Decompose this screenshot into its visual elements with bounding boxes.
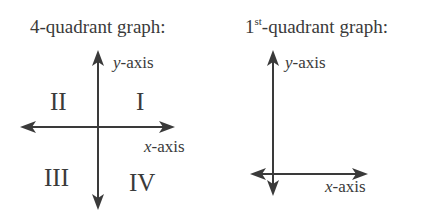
x-axis-label: x-axis <box>324 177 366 196</box>
quadrant-II-label: II <box>50 88 67 115</box>
four-quadrant-title: 4-quadrant graph: <box>30 16 166 37</box>
first-quadrant-title: 1st-quadrant graph: <box>245 15 388 37</box>
first-quadrant-graph: 1st-quadrant graph: y-axis x-axis <box>245 15 388 196</box>
y-axis-label: y-axis <box>111 53 154 72</box>
quadrant-III-label: III <box>44 164 69 191</box>
four-quadrant-graph: 4-quadrant graph: y-axis x-axis II I III… <box>20 16 185 210</box>
quadrant-diagrams: 4-quadrant graph: y-axis x-axis II I III… <box>0 0 425 224</box>
y-axis-label: y-axis <box>283 53 326 72</box>
quadrant-I-label: I <box>136 88 144 115</box>
x-axis-label: x-axis <box>143 137 185 156</box>
quadrant-IV-label: IV <box>129 169 155 196</box>
